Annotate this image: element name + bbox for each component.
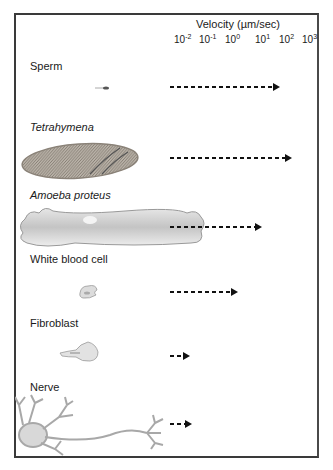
tick-1e3: 103 (302, 33, 317, 45)
fibroblast-illustration (58, 340, 102, 364)
label-white-blood-cell: White blood cell (30, 253, 108, 265)
tick-1e-2: 10-2 (174, 33, 191, 45)
sperm-illustration (94, 84, 110, 92)
velocity-arrow-white-blood-cell (170, 291, 232, 293)
tick-1e0: 100 (225, 33, 240, 45)
velocity-arrow-fibroblast (170, 355, 184, 357)
tick-1e1: 101 (255, 33, 270, 45)
tetrahymena-illustration (20, 140, 140, 182)
nerve-illustration (15, 393, 175, 457)
label-fibroblast: Fibroblast (30, 317, 78, 329)
velocity-arrow-nerve (170, 423, 186, 425)
velocity-arrow-tetrahymena (170, 157, 286, 159)
velocity-arrow-sperm (170, 86, 274, 88)
velocity-axis-title: Velocity (µm/sec) (196, 18, 280, 30)
velocity-arrow-amoeba (170, 226, 256, 228)
white-blood-cell-illustration (78, 283, 100, 300)
label-tetrahymena: Tetrahymena (30, 121, 94, 133)
label-nerve: Nerve (30, 381, 59, 393)
label-sperm: Sperm (30, 60, 62, 72)
label-amoeba-proteus: Amoeba proteus (30, 189, 111, 201)
tick-1e2: 102 (279, 33, 294, 45)
tick-1e-1: 10-1 (199, 33, 216, 45)
